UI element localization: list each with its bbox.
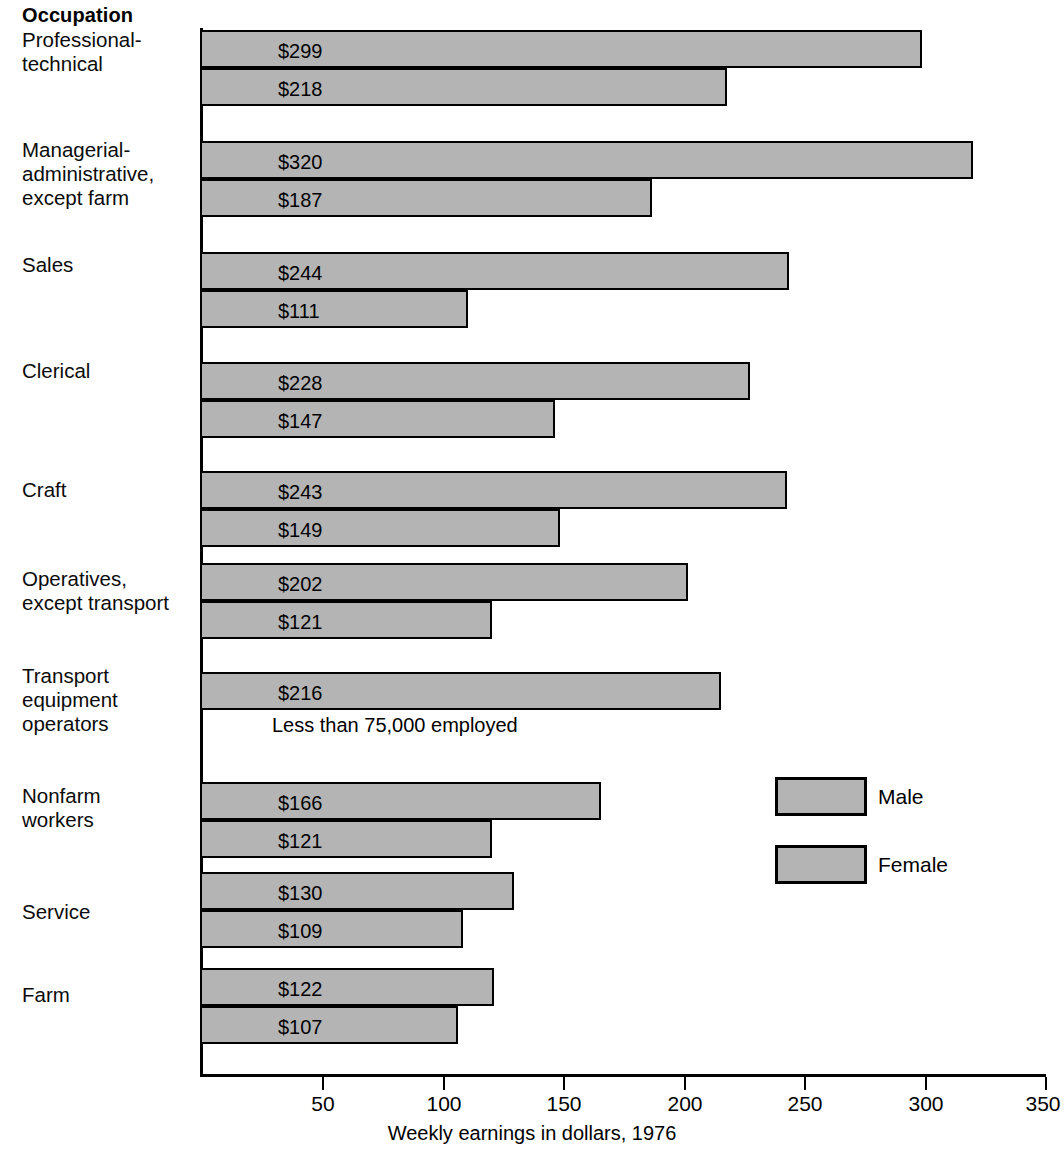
category-label-farm: Farm xyxy=(22,983,70,1007)
x-tick-200 xyxy=(684,1077,686,1090)
bar-value-professional-technical-male: $299 xyxy=(278,40,323,63)
bar-value-nonfarm-workers-male: $166 xyxy=(278,792,323,815)
category-label-managerial-administrative: Managerial- administrative, except farm xyxy=(22,138,154,210)
legend-swatch-male xyxy=(775,777,867,816)
legend-label-male: Male xyxy=(878,785,924,809)
x-tick-100 xyxy=(443,1077,445,1090)
bar-value-operatives-male: $202 xyxy=(278,573,323,596)
bar-farm-male[interactable] xyxy=(200,968,494,1006)
x-tick-label-250: 250 xyxy=(770,1092,840,1116)
bar-value-clerical-male: $228 xyxy=(278,372,323,395)
bar-nonfarm-workers-female[interactable] xyxy=(200,820,492,858)
category-label-clerical: Clerical xyxy=(22,359,90,383)
bar-value-nonfarm-workers-female: $121 xyxy=(278,830,323,853)
bar-value-transport-male: $216 xyxy=(278,682,323,705)
annotation-transport-female: Less than 75,000 employed xyxy=(272,714,518,737)
bar-nonfarm-workers-male[interactable] xyxy=(200,782,601,820)
x-tick-150 xyxy=(563,1077,565,1090)
bar-value-operatives-female: $121 xyxy=(278,611,323,634)
bar-value-managerial-male: $320 xyxy=(278,151,323,174)
category-label-transport-equipment-operators: Transport equipment operators xyxy=(22,664,118,736)
x-tick-label-200: 200 xyxy=(650,1092,720,1116)
bar-value-craft-female: $149 xyxy=(278,519,323,542)
x-tick-label-350: 350 xyxy=(1008,1092,1064,1116)
x-tick-300 xyxy=(925,1077,927,1090)
bar-value-sales-female: $111 xyxy=(278,300,320,323)
x-tick-250 xyxy=(804,1077,806,1090)
x-axis-title: Weekly earnings in dollars, 1976 xyxy=(0,1122,1064,1145)
legend-label-female: Female xyxy=(878,853,948,877)
x-tick-label-300: 300 xyxy=(891,1092,961,1116)
legend-swatch-female xyxy=(775,845,867,884)
x-tick-label-50: 50 xyxy=(288,1092,358,1116)
bar-value-craft-male: $243 xyxy=(278,481,323,504)
bar-value-managerial-female: $187 xyxy=(278,189,323,212)
bar-operatives-male[interactable] xyxy=(200,563,688,601)
bar-value-sales-male: $244 xyxy=(278,262,323,285)
x-tick-label-150: 150 xyxy=(529,1092,599,1116)
bar-sales-female[interactable] xyxy=(200,290,468,328)
bar-value-professional-technical-female: $218 xyxy=(278,78,323,101)
bar-value-farm-male: $122 xyxy=(278,978,323,1001)
x-tick-50 xyxy=(322,1077,324,1090)
category-label-nonfarm-workers: Nonfarm workers xyxy=(22,784,101,832)
chart-container: Occupation 50 100 150 200 250 300 350 We… xyxy=(0,0,1064,1158)
bar-value-farm-female: $107 xyxy=(278,1016,323,1039)
bar-value-service-male: $130 xyxy=(278,882,323,905)
category-label-professional-technical: Professional- technical xyxy=(22,28,142,76)
bar-service-female[interactable] xyxy=(200,910,463,948)
bar-farm-female[interactable] xyxy=(200,1006,458,1044)
category-label-sales: Sales xyxy=(22,253,73,277)
bar-craft-female[interactable] xyxy=(200,509,560,547)
bar-clerical-female[interactable] xyxy=(200,400,555,438)
x-tick-label-100: 100 xyxy=(409,1092,479,1116)
bar-service-male[interactable] xyxy=(200,872,514,910)
bar-value-service-female: $109 xyxy=(278,920,323,943)
bar-managerial-female[interactable] xyxy=(200,179,652,217)
category-label-craft: Craft xyxy=(22,478,66,502)
bar-value-clerical-female: $147 xyxy=(278,410,323,433)
category-label-service: Service xyxy=(22,900,90,924)
x-tick-350 xyxy=(1045,1077,1047,1090)
bar-operatives-female[interactable] xyxy=(200,601,492,639)
x-axis-line xyxy=(200,1074,1046,1077)
category-label-operatives: Operatives, except transport xyxy=(22,567,169,615)
